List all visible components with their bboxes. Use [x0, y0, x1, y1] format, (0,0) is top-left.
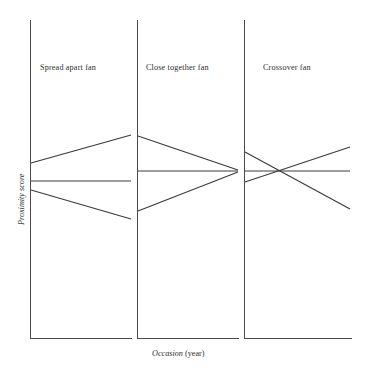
panel-1-line-lower: [31, 190, 131, 219]
figure-canvas: Spread apart fan Close together fan Cros…: [0, 0, 365, 371]
panel-spread-apart-fan: Spread apart fan: [31, 20, 133, 339]
panel-1-line-upper: [31, 135, 131, 163]
panel-2-line-upper: [138, 136, 238, 170]
x-axis-label-plain: (year): [183, 349, 205, 358]
panel-3-title: Crossover fan: [263, 63, 311, 72]
panel-close-together-fan: Close together fan: [138, 20, 240, 339]
y-axis-label: Proximity score: [17, 173, 26, 226]
panel-crossover-fan: Crossover fan: [245, 20, 353, 339]
panel-3-line-descending: [245, 152, 350, 209]
panel-3-line-ascending: [245, 147, 350, 182]
x-axis-label-italic: Occasion: [152, 349, 183, 358]
panel-2-line-lower: [138, 172, 238, 211]
panel-1-title: Spread apart fan: [40, 63, 96, 72]
x-axis-label: Occasion (year): [152, 349, 205, 358]
panel-2-title: Close together fan: [146, 63, 209, 72]
